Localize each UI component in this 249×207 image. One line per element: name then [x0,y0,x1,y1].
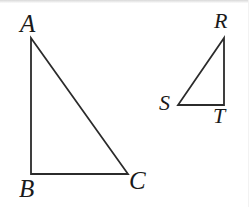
triangle-abc-shape [31,38,128,174]
vertex-label-t: T [213,105,225,127]
vertex-label-s: S [159,92,170,114]
vertex-label-c: C [129,168,146,193]
triangle-rst-shape [178,38,224,105]
vertex-label-b: B [19,176,34,201]
geometry-figure: A B C R S T [0,0,249,207]
geometry-canvas [0,0,249,207]
vertex-label-a: A [20,11,35,36]
vertex-label-r: R [214,10,227,32]
